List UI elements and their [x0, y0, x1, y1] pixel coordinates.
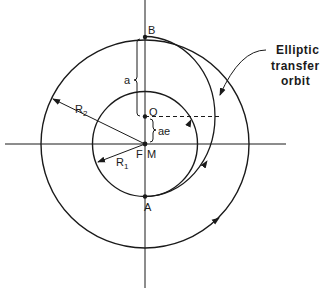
- callout-line-2: transfer: [271, 59, 320, 73]
- label-f: F: [136, 148, 143, 160]
- point-o: [143, 114, 147, 118]
- label-a-semimajor: a: [124, 74, 131, 86]
- inner-orbit-arrow: [189, 120, 191, 124]
- point-m: [143, 142, 148, 147]
- callout-line-3: orbit: [281, 74, 310, 88]
- label-r2-sub: 2: [83, 109, 88, 118]
- semi-major-axis-bracket: [134, 39, 140, 116]
- transfer-orbit-diagram: B a O ae F M A R2 R1 Elliptic transfer o…: [0, 0, 327, 302]
- label-o: O: [149, 106, 158, 118]
- callout-leader: [220, 50, 266, 95]
- label-r2-main: R: [75, 103, 83, 115]
- label-r1: R1: [116, 156, 129, 171]
- point-b: [143, 35, 147, 39]
- r2-radius-line: [53, 99, 145, 144]
- label-r1-main: R: [116, 156, 124, 168]
- focus-offset-bracket: [150, 119, 156, 142]
- point-a: [143, 194, 147, 198]
- label-a-perigee: A: [144, 201, 152, 213]
- label-b: B: [148, 24, 155, 36]
- callout-line-1: Elliptic: [276, 43, 319, 57]
- label-ae: ae: [158, 125, 170, 137]
- label-r2: R2: [75, 103, 88, 118]
- label-r1-sub: 1: [124, 162, 129, 171]
- label-m: M: [147, 148, 156, 160]
